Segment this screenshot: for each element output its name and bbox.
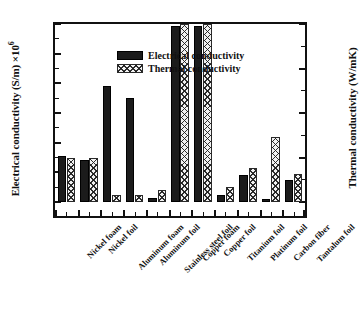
legend-label-thermal: Thermal conductivity <box>148 63 241 74</box>
bar-thermal <box>294 174 302 202</box>
x-axis-minor-tick <box>157 212 158 216</box>
x-axis-tick <box>214 210 216 216</box>
x-axis-tick <box>100 210 102 216</box>
bar-thermal <box>226 187 234 202</box>
bar-thermal <box>135 195 143 202</box>
y-axis-left-tick <box>55 53 61 55</box>
x-axis-tick <box>282 210 284 216</box>
legend: Electrical conductivity Thermal conducti… <box>117 50 244 76</box>
bar-thermal <box>67 158 75 202</box>
y-axis-left-minor-tick <box>55 68 59 69</box>
x-axis-minor-tick <box>180 212 181 216</box>
legend-item-electrical: Electrical conductivity <box>117 50 244 61</box>
legend-label-electrical: Electrical conductivity <box>148 50 244 61</box>
y-axis-left-minor-tick <box>55 38 59 39</box>
bar-electrical <box>239 175 247 202</box>
y-axis-right-tick <box>299 112 305 114</box>
x-axis-tick <box>237 210 239 216</box>
bar-electrical <box>126 98 134 202</box>
y-axis-right-minor-tick <box>301 46 305 47</box>
bar-thermal <box>271 137 279 202</box>
legend-swatch-thermal-icon <box>117 64 143 73</box>
y-axis-left-tick <box>55 23 61 25</box>
x-axis-tick <box>146 210 148 216</box>
bar-electrical <box>80 160 88 202</box>
x-axis-minor-tick <box>66 212 67 216</box>
y-axis-right-tick <box>299 157 305 159</box>
y-axis-left-tick <box>55 112 61 114</box>
y-axis-right-tick <box>299 68 305 70</box>
x-axis-minor-tick <box>203 212 204 216</box>
x-axis-tick <box>260 210 262 216</box>
y-axis-right-title: Thermal conductivity (W/mK) <box>346 18 358 218</box>
x-axis-tick <box>303 210 305 216</box>
x-axis-minor-tick <box>135 212 136 216</box>
bar-electrical <box>217 195 225 202</box>
bar-electrical <box>148 198 156 202</box>
x-axis-minor-tick <box>225 212 226 216</box>
bar-electrical <box>103 86 111 202</box>
y-axis-right-minor-tick <box>301 90 305 91</box>
y-axis-left-title: Electrical conductivity (S/m) ×106 <box>7 19 21 219</box>
y-axis-left-tick <box>55 82 61 84</box>
bar-thermal <box>112 195 120 202</box>
x-axis-tick <box>55 210 57 216</box>
x-axis-minor-tick <box>112 212 113 216</box>
x-axis-minor-tick <box>89 212 90 216</box>
y-axis-left-title-text: Electrical conductivity (S/m) ×10 <box>9 45 21 196</box>
y-axis-right-minor-tick <box>301 135 305 136</box>
conductivity-bar-chart: Electrical conductivity (S/m) ×106 Therm… <box>0 0 362 310</box>
y-axis-right-tick <box>299 23 305 25</box>
legend-item-thermal: Thermal conductivity <box>117 63 244 74</box>
legend-swatch-electrical-icon <box>117 51 143 60</box>
bar-thermal <box>158 190 166 202</box>
bar-electrical <box>262 199 270 202</box>
bar-electrical <box>285 180 293 202</box>
bar-thermal <box>249 168 257 202</box>
y-axis-left-tick <box>55 142 61 144</box>
bar-thermal <box>89 158 97 202</box>
x-axis-minor-tick <box>294 212 295 216</box>
x-axis-tick <box>191 210 193 216</box>
bar-electrical <box>58 156 66 202</box>
x-axis-tick <box>123 210 125 216</box>
x-axis-minor-tick <box>248 212 249 216</box>
y-axis-left-minor-tick <box>55 127 59 128</box>
plot-frame: 01020304050600100200300400 Electrical co… <box>53 22 307 218</box>
y-axis-left-minor-tick <box>55 98 59 99</box>
x-axis-category-labels: Nickel foamNickel foilAluminum foamAlumi… <box>53 222 307 310</box>
x-axis-minor-tick <box>271 212 272 216</box>
y-axis-left-title-exponent: 6 <box>7 41 16 45</box>
x-axis-tick <box>169 210 171 216</box>
x-axis-tick <box>78 210 80 216</box>
